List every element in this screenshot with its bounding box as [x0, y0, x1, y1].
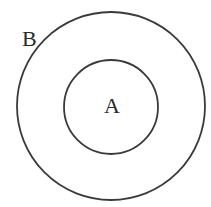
concentric-circles-diagram: B A: [0, 0, 211, 207]
diagram-canvas: B A: [0, 0, 211, 207]
label-b: B: [22, 26, 37, 51]
label-a: A: [104, 93, 120, 118]
